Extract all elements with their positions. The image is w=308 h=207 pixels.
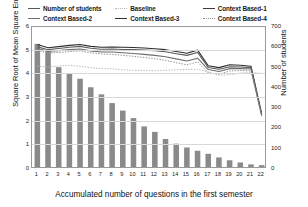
x-axis-tick-label: 15 [183,171,189,177]
y-axis-left-tick-label: 6 [19,23,29,29]
x-axis-tick-label: 17 [204,171,210,177]
legend-swatch-icon [28,5,40,12]
x-axis-tick-label: 11 [140,171,146,177]
bar [141,126,147,168]
x-axis-tick-label: 21 [247,171,253,177]
x-axis-line [32,167,265,168]
bar [45,50,51,168]
legend-item: Context Based-3 [115,13,198,23]
y-axis-right-tick-label: 0 [271,165,289,171]
y-axis-left-tick-label: 0 [19,165,29,171]
legend-swatch-icon [28,15,40,22]
x-axis-tick-label: 13 [161,171,167,177]
x-axis-tick-label: 4 [67,171,70,177]
x-axis-tick-label: 14 [172,171,178,177]
y-axis-left-tick-label: 3 [19,94,29,100]
y-axis-left-title: Square Root of Mean Square Error [11,0,20,125]
gridline [32,121,265,122]
legend-label: Context Based-4 [218,14,267,23]
plot-area [31,26,266,168]
bar [120,111,126,168]
legend-swatch-icon [203,15,215,22]
x-axis-tick-label: 5 [78,171,81,177]
bar [56,67,62,168]
x-axis-tick-label: 20 [236,171,242,177]
legend-label: Number of students [43,4,102,13]
gridline [32,97,265,98]
y-axis-left-tick-label: 5 [19,47,29,53]
x-axis-tick-label: 8 [110,171,113,177]
legend-item: Context Based-2 [28,13,111,23]
bar [109,103,115,168]
legend-label: Context Based-1 [218,4,267,13]
x-axis-tick-label: 10 [129,171,135,177]
bar [205,154,211,168]
legend-item: Context Based-1 [203,3,286,13]
y-axis-left-tick-label: 4 [19,70,29,76]
bar [152,132,158,168]
legend-label: Context Based-3 [130,14,179,23]
chart-figure: Number of studentsBaselineContext Based-… [0,0,308,207]
x-axis-tick-label: 2 [45,171,48,177]
x-axis-tick-label: 18 [215,171,221,177]
x-axis-tick-label: 7 [99,171,102,177]
legend-item: Number of students [28,3,111,13]
y-axis-right-tick-label: 100 [271,145,289,151]
gridline [32,50,265,51]
x-axis-tick-label: 9 [120,171,123,177]
bar [173,144,179,168]
gridline [32,144,265,145]
bar [195,151,201,168]
x-axis-tick-label: 3 [56,171,59,177]
bar [184,148,190,168]
x-axis-title: Accumulated number of questions in the f… [0,190,308,199]
gridline [32,73,265,74]
bar [99,94,105,168]
y-axis-left-tick-label: 2 [19,118,29,124]
legend-label: Baseline [130,4,156,13]
x-axis-tick-label: 22 [258,171,264,177]
legend-swatch-icon [203,5,215,12]
legend-item: Baseline [115,3,198,13]
legend-label: Context Based-2 [43,14,92,23]
y-axis-right-title: Number of students [279,0,288,128]
chart-legend: Number of studentsBaselineContext Based-… [28,3,286,23]
y-axis-left-tick-label: 1 [19,141,29,147]
bar [88,87,94,168]
bar [163,139,169,168]
x-axis-tick-label: 16 [193,171,199,177]
bar [77,79,83,168]
x-axis-tick-label: 6 [88,171,91,177]
legend-swatch-icon [115,5,127,12]
bar [131,118,137,168]
bar [35,44,41,168]
legend-swatch-icon [115,15,127,22]
x-axis-tick-label: 12 [151,171,157,177]
legend-item: Context Based-4 [203,13,286,23]
x-axis-tick-label: 1 [35,171,38,177]
plot-top-border [32,26,265,27]
x-axis-tick-label: 19 [225,171,231,177]
